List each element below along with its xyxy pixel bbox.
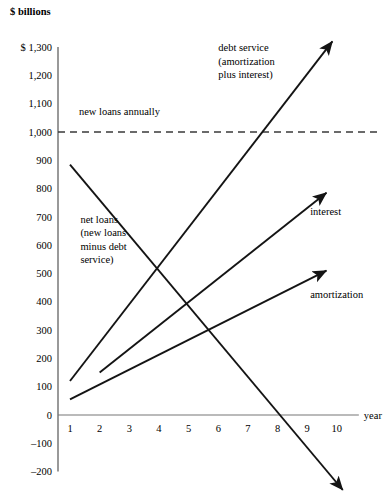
y-axis-tick-label: 300: [36, 325, 52, 336]
y-axis-tick-label: 0: [47, 410, 52, 421]
x-axis-tick-label: 3: [127, 423, 132, 434]
series-line: [100, 193, 327, 373]
y-axis-tick-label: 1,100: [28, 98, 52, 109]
y-axis-tick-label: 100: [36, 381, 52, 392]
y-axis-tick-label: 1,000: [28, 127, 52, 138]
series-label: amortization: [310, 289, 364, 300]
x-axis-tick-label: 9: [305, 423, 310, 434]
series-line: [70, 271, 326, 400]
y-axis-unit-label: $ billions: [10, 6, 51, 17]
series-label: debt service(amortizationplus interest): [218, 42, 275, 81]
series-label-line: interest: [310, 206, 341, 217]
x-axis-name-label: year: [364, 410, 383, 421]
series-label: net loans(new loansminus debtservice): [80, 214, 126, 267]
x-axis-tick-label: 7: [245, 423, 250, 434]
series-label-line: debt service: [218, 42, 269, 53]
x-axis-tick-labels: 12345678910: [67, 423, 342, 434]
y-axis-tick-label: –100: [30, 438, 52, 449]
x-axis-tick-label: 6: [216, 423, 221, 434]
x-axis-tick-label: 10: [332, 423, 343, 434]
x-axis-tick-label: 5: [186, 423, 191, 434]
chart-canvas: $ billions $ 1,3001,2001,1001,0009008007…: [0, 0, 384, 499]
x-axis-tick-label: 2: [97, 423, 102, 434]
y-axis-tick-label: 500: [36, 268, 52, 279]
series-label-line: (new loans: [80, 227, 126, 239]
y-axis-tick-label: 900: [36, 155, 52, 166]
y-axis-tick-label: 200: [36, 353, 52, 364]
y-axis-tick-label: –200: [30, 466, 52, 477]
x-axis-tick-label: 4: [156, 423, 162, 434]
y-axis-tick-label: 800: [36, 183, 52, 194]
x-axis-tick-label: 8: [275, 423, 280, 434]
series-label-line: minus debt: [80, 241, 126, 252]
x-axis-tick-label: 1: [67, 423, 72, 434]
series-label-line: service): [80, 254, 114, 266]
y-axis-tick-labels: $ 1,3001,2001,1001,000900800700600500400…: [21, 42, 53, 478]
y-axis-tick-label: 600: [36, 240, 52, 251]
series-label-line: amortization: [310, 289, 364, 300]
chart-figure: $ billions $ 1,3001,2001,1001,0009008007…: [0, 0, 384, 499]
series-label: interest: [310, 206, 341, 217]
series-label-line: net loans: [80, 214, 118, 225]
series-labels-group: debt service(amortizationplus interest)i…: [80, 42, 364, 299]
y-axis-tick-label: 700: [36, 212, 52, 223]
y-axis-tick-label: $ 1,300: [21, 42, 53, 53]
y-axis-tick-label: 1,200: [28, 70, 52, 81]
series-label-line: plus interest): [218, 69, 273, 81]
y-axis-tick-label: 400: [36, 296, 52, 307]
series-label-line: (amortization: [218, 56, 275, 68]
reference-line-label: new loans annually: [79, 106, 161, 117]
